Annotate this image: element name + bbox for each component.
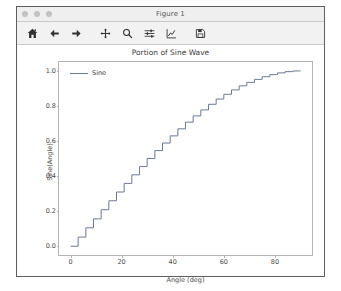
close-dot-icon[interactable]	[22, 11, 28, 17]
x-tick-mark	[275, 255, 276, 258]
plot-axes: Sine Sine(Angle) Angle (deg) 0.00.20.40.…	[58, 61, 313, 256]
sine-curve-plot	[59, 62, 312, 255]
edit-axis-curve-icon	[166, 28, 177, 39]
toolbar-separator-2	[182, 23, 189, 44]
x-tick-mark	[224, 255, 225, 258]
x-tick-mark	[71, 255, 72, 258]
y-tick-label: 0.4	[46, 172, 56, 180]
y-tick-mark	[57, 141, 60, 142]
x-tick-label: 0	[68, 258, 72, 266]
y-tick-label: 0.6	[46, 137, 56, 145]
minimize-dot-icon[interactable]	[34, 11, 40, 17]
zoom-button[interactable]	[116, 23, 138, 44]
y-tick-mark	[57, 106, 60, 107]
configure-subplots-sliders-icon	[144, 28, 155, 39]
matplotlib-toolbar[interactable]	[17, 22, 324, 45]
pan-button[interactable]	[94, 23, 116, 44]
y-tick-label: 0.8	[46, 102, 56, 110]
pan-move-icon	[100, 28, 111, 39]
y-tick-mark	[57, 211, 60, 212]
x-tick-label: 80	[271, 258, 279, 266]
x-tick-mark	[122, 255, 123, 258]
x-tick-mark	[173, 255, 174, 258]
figure-window: Figure 1	[16, 6, 325, 277]
configure-subplots-button[interactable]	[138, 23, 160, 44]
chart-title: Portion of Sine Wave	[17, 48, 324, 57]
home-button[interactable]	[21, 23, 43, 44]
back-button[interactable]	[43, 23, 65, 44]
forward-button[interactable]	[65, 23, 87, 44]
x-tick-label: 40	[169, 258, 177, 266]
y-tick-mark	[57, 246, 60, 247]
figure-canvas: Portion of Sine Wave Sine Sine(Angle) An…	[17, 45, 324, 276]
y-tick-mark	[57, 71, 60, 72]
edit-axis-button[interactable]	[160, 23, 182, 44]
back-arrow-icon	[49, 28, 60, 39]
x-tick-label: 20	[117, 258, 125, 266]
x-axis-label: Angle (deg)	[59, 276, 312, 284]
window-titlebar: Figure 1	[17, 7, 324, 22]
legend-line-swatch	[70, 73, 88, 74]
y-tick-label: 0.0	[46, 242, 56, 250]
sine-series-line	[70, 71, 300, 246]
y-tick-label: 0.2	[46, 207, 56, 215]
save-floppy-icon	[195, 28, 206, 39]
legend-label-sine: Sine	[92, 69, 106, 77]
y-tick-label: 1.0	[46, 67, 56, 75]
zoom-dot-icon[interactable]	[46, 11, 52, 17]
window-controls[interactable]	[22, 7, 52, 21]
forward-arrow-icon	[71, 28, 82, 39]
window-title: Figure 1	[17, 7, 324, 22]
home-icon	[27, 28, 38, 39]
zoom-magnifier-icon	[122, 28, 133, 39]
legend: Sine	[67, 68, 109, 78]
x-tick-label: 60	[220, 258, 228, 266]
toolbar-separator	[87, 23, 94, 44]
y-tick-mark	[57, 176, 60, 177]
save-button[interactable]	[189, 23, 211, 44]
